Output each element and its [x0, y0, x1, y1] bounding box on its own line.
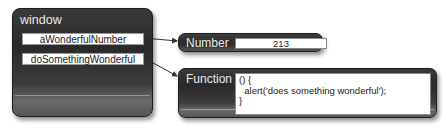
- code-line-2: alert('does something wonderful');: [239, 86, 427, 97]
- number-object-box: Number 213: [178, 33, 323, 52]
- property-a-wonderful-number: aWonderfulNumber: [22, 33, 144, 45]
- diagram-stage: window aWonderfulNumber doSomethingWonde…: [0, 0, 448, 131]
- number-value-field: 213: [235, 38, 327, 49]
- window-title: window: [20, 13, 62, 27]
- code-line-1: () {: [239, 75, 427, 86]
- function-object-box: Function () { alert('does something wond…: [178, 68, 437, 118]
- panel-sheen: [181, 109, 434, 110]
- panel-sheen: [15, 95, 150, 96]
- window-object-box: window aWonderfulNumber doSomethingWonde…: [12, 8, 153, 117]
- function-type-label: Function: [186, 72, 232, 86]
- property-do-something-wonderful: doSomethingWonderful: [22, 53, 144, 65]
- number-type-label: Number: [186, 36, 229, 50]
- code-line-3: }: [239, 96, 427, 107]
